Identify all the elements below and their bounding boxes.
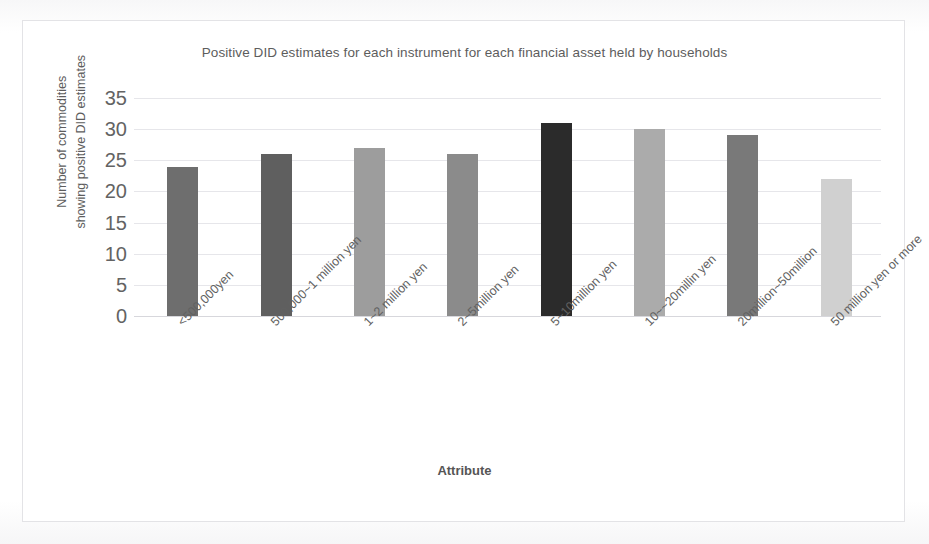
chart-frame: Positive DID estimates for each instrume… [22, 20, 905, 522]
bar[interactable] [167, 167, 198, 316]
bar[interactable] [541, 123, 572, 316]
bar[interactable] [821, 179, 852, 316]
bar[interactable] [447, 154, 478, 316]
y-axis-tick-label: 25 [105, 150, 127, 170]
y-axis-tick-label: 10 [105, 244, 127, 264]
y-axis-tick-label: 0 [116, 306, 127, 326]
bar[interactable] [727, 135, 758, 316]
gridline [134, 316, 881, 317]
bar[interactable] [261, 154, 292, 316]
x-axis-tick-labels: <500,000yen500,000~1 million yen1~2 mill… [134, 319, 881, 469]
x-axis-title: Attribute [23, 463, 906, 478]
bar[interactable] [354, 148, 385, 316]
y-axis-tick-label: 35 [105, 88, 127, 108]
y-axis-title-line-1: Number of commodities [53, 27, 72, 257]
bar[interactable] [634, 129, 665, 316]
chart-title: Positive DID estimates for each instrume… [23, 45, 906, 60]
y-axis-tick-labels: 35302520151050 [81, 98, 127, 316]
y-axis-tick-label: 15 [105, 213, 127, 233]
y-axis-tick-label: 30 [105, 119, 127, 139]
y-axis-tick-label: 5 [116, 275, 127, 295]
y-axis-tick-label: 20 [105, 181, 127, 201]
